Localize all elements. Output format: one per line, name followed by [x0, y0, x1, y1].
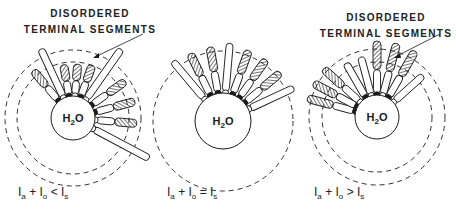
surfactant-chain [91, 116, 137, 128]
disordered-segment [259, 70, 283, 92]
panel-right: H2O [306, 41, 445, 185]
disordered-segment [187, 52, 205, 78]
disordered-segment [206, 46, 218, 72]
disordered-segment [249, 57, 270, 82]
disordered-segment [82, 64, 96, 83]
condition-left: Ia + Io < Is [18, 185, 68, 201]
disordered-segment [72, 64, 81, 81]
panel-left: H2O [5, 47, 151, 186]
disordered-segment [114, 118, 137, 128]
disordered-segment [373, 41, 381, 70]
right-leader-arrow [397, 34, 440, 56]
panel-middle: H2O [153, 43, 295, 191]
condition-middle: Ia + Io = Is [167, 185, 217, 201]
condition-right: Ia + Io > Is [314, 185, 364, 201]
surfactant-chain [373, 41, 381, 98]
disordered-segment [60, 64, 71, 82]
disordered-segment [105, 78, 128, 97]
surfactant-chain [88, 124, 151, 162]
disordered-segment [113, 98, 136, 111]
micelle-diagram: H2O H2O H2O [0, 0, 456, 213]
